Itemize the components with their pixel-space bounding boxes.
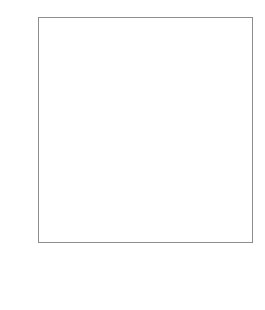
plot-area (38, 17, 253, 243)
chart-title (0, 0, 265, 5)
chart-figure (0, 0, 265, 310)
